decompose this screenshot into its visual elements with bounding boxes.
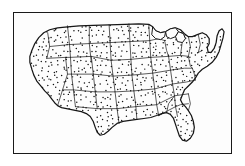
map-frame-border <box>13 12 232 154</box>
us-map-graphic <box>14 13 231 153</box>
screenshot-root: Outline map of the 48 contiguous United … <box>0 0 245 166</box>
